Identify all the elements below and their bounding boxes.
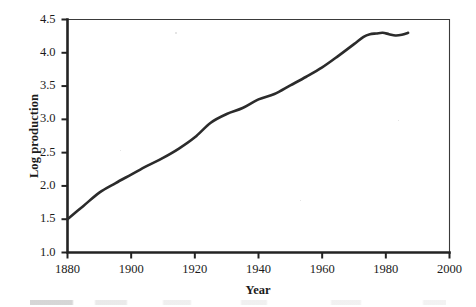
axis-layer — [68, 20, 450, 253]
x-tick-label: 1960 — [298, 263, 346, 276]
plot-canvas — [0, 0, 476, 307]
scan-speckle — [398, 120, 399, 121]
y-tick-label: 3.0 — [22, 112, 56, 125]
y-tick-label: 1.5 — [22, 212, 56, 225]
y-tick-label: 4.0 — [22, 46, 56, 59]
y-tick-label: 1.0 — [22, 246, 56, 259]
cropped-caption-sliver — [30, 300, 446, 305]
x-tick-label: 1880 — [44, 263, 92, 276]
x-tick-label: 2000 — [426, 263, 474, 276]
data-line-0 — [68, 33, 409, 219]
figure-root: Log production 1.01.52.02.53.03.54.04.5 … — [0, 0, 476, 307]
tick-mark-layer — [62, 20, 450, 259]
scan-speckle — [120, 150, 121, 151]
x-tick-label: 1980 — [362, 263, 410, 276]
scan-speckle — [300, 200, 301, 201]
x-tick-label: 1900 — [107, 263, 155, 276]
x-tick-label: 1940 — [235, 263, 283, 276]
y-tick-label: 2.0 — [22, 179, 56, 192]
x-axis-title: Year — [67, 283, 449, 297]
scan-speckle — [175, 32, 177, 34]
x-tick-label: 1920 — [171, 263, 219, 276]
y-tick-label: 3.5 — [22, 79, 56, 92]
y-tick-label: 2.5 — [22, 146, 56, 159]
data-series-layer — [68, 33, 409, 219]
y-tick-label: 4.5 — [22, 13, 56, 26]
